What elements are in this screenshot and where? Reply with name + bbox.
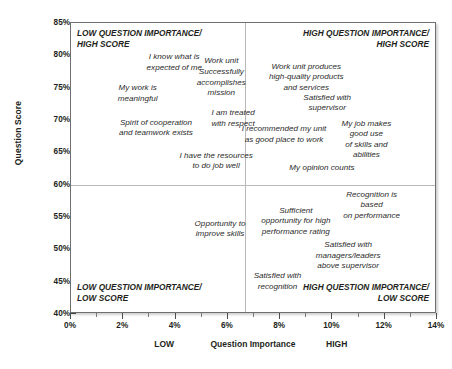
y-tick-label: 60% [36,179,70,188]
x-tick-mark-minor [96,313,97,317]
x-tick-mark [227,313,228,319]
data-point-label: Satisfied with supervisor [303,93,351,114]
x-tick-mark-minor [253,313,254,317]
quadrant-label-low-importance-high-score: LOW QUESTION IMPORTANCE/ HIGH SCORE [77,28,239,51]
y-tick-label: 70% [36,115,70,124]
quadrant-label-low-importance-low-score: LOW QUESTION IMPORTANCE/ LOW SCORE [77,282,239,305]
data-point-label: My work is meaningful [118,83,158,104]
data-point-label: I know what is expected of me [147,52,202,73]
x-tick-mark-minor [305,313,306,317]
y-tick-label: 50% [36,244,70,253]
data-point-label: My opinion counts [289,163,354,174]
question-importance-score-quadrant-chart: Question Score 40%45%50%55%60%65%70%75%8… [0,0,452,369]
data-point-label: My job makes good use of skills and abil… [332,119,401,161]
x-tick-label: 12% [364,321,404,330]
plot-area: LOW QUESTION IMPORTANCE/ HIGH SCOREHIGH … [70,22,436,313]
x-tick-label: 0% [50,321,90,330]
data-point-label: Recognition is based on performance [340,190,403,222]
x-tick-label: 6% [207,321,247,330]
data-point-label: I have the resources to do job well [179,151,252,172]
quadrant-label-high-importance-high-score: HIGH QUESTION IMPORTANCE/ HIGH SCORE [251,28,429,51]
x-tick-mark-minor [148,313,149,317]
data-point-label: Work unit produces high-quality products… [269,62,344,94]
y-tick-label: 80% [36,50,70,59]
y-axis-title: Question Score [13,73,23,193]
x-tick-mark [384,313,385,319]
x-tick-mark [122,313,123,319]
y-tick-label: 45% [36,276,70,285]
x-tick-label: 10% [311,321,351,330]
y-tick-label: 85% [36,18,70,27]
y-tick-label: 40% [36,309,70,318]
x-axis-label: HIGH [277,339,397,349]
y-tick-label: 75% [36,82,70,91]
y-axis-ticks: 40%45%50%55%60%65%70%75%80%85% [30,0,70,369]
data-point-label: Spirit of cooperation and teamwork exist… [119,118,193,139]
data-point-label: Satisfied with recognition [254,271,302,292]
data-point-label: I recommended my unit as good place to w… [242,124,327,145]
data-point-label: Satisfied with managers/leaders above su… [316,240,381,272]
x-tick-mark [70,313,71,319]
x-tick-mark-minor [358,313,359,317]
x-tick-label: 8% [259,321,299,330]
x-tick-label: 2% [102,321,142,330]
x-tick-mark-minor [410,313,411,317]
x-tick-label: 14% [416,321,452,330]
y-tick-label: 65% [36,147,70,156]
x-tick-mark [279,313,280,319]
x-tick-mark-minor [201,313,202,317]
data-point-label: Sufficient opportunity for high performa… [261,206,330,238]
y-tick-label: 55% [36,212,70,221]
x-tick-label: 4% [155,321,195,330]
x-tick-mark [331,313,332,319]
x-tick-mark [175,313,176,319]
quadrant-divider-horizontal [71,185,435,186]
x-tick-mark [436,313,437,319]
data-point-label: Opportunity to improve skills [195,219,246,240]
data-point-label: Work unit Successfully accomplishes miss… [197,56,246,98]
